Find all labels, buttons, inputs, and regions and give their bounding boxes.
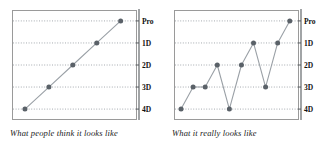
data-point-marker <box>46 85 51 90</box>
panel-reality: 4D3D2D1DPro What it really looks like <box>160 0 320 149</box>
chart-reality: 4D3D2D1DPro <box>174 10 320 120</box>
data-point-marker <box>227 107 232 112</box>
data-point-marker <box>287 18 292 23</box>
axis-expected <box>136 9 140 120</box>
caption-reality: What it really looks like <box>172 128 257 138</box>
data-point-marker <box>203 85 208 90</box>
chart-expected: 4D3D2D1DPro <box>12 10 160 120</box>
ytick-label: 1D <box>142 39 152 48</box>
ytick-label: 2D <box>304 61 314 70</box>
data-point-marker <box>70 63 75 68</box>
data-point-marker <box>239 63 244 68</box>
ytick-label: 2D <box>142 61 152 70</box>
ytick-label: 1D <box>304 39 314 48</box>
ytick-label: 3D <box>304 83 314 92</box>
data-point-marker <box>251 40 256 45</box>
data-point-marker <box>275 40 280 45</box>
gridlines-reality <box>175 21 297 109</box>
data-point-marker <box>191 85 196 90</box>
data-point-marker <box>118 18 123 23</box>
data-point-marker <box>263 85 268 90</box>
data-point-marker <box>94 40 99 45</box>
panel-expected: 4D3D2D1DPro What people think it looks l… <box>0 0 160 149</box>
ytick-label: 3D <box>142 83 152 92</box>
two-panel-figure: 4D3D2D1DPro What people think it looks l… <box>0 0 320 149</box>
caption-expected: What people think it looks like <box>10 128 118 138</box>
data-point-marker <box>22 107 27 112</box>
axis-reality <box>298 9 302 120</box>
ytick-labels-expected: 4D3D2D1DPro <box>142 17 154 114</box>
ytick-label: 4D <box>142 105 152 114</box>
ytick-label: 4D <box>304 105 314 114</box>
ytick-label: Pro <box>142 17 154 26</box>
data-point-marker <box>179 107 184 112</box>
ytick-labels-reality: 4D3D2D1DPro <box>304 17 316 114</box>
ytick-label: Pro <box>304 17 316 26</box>
data-point-marker <box>215 63 220 68</box>
